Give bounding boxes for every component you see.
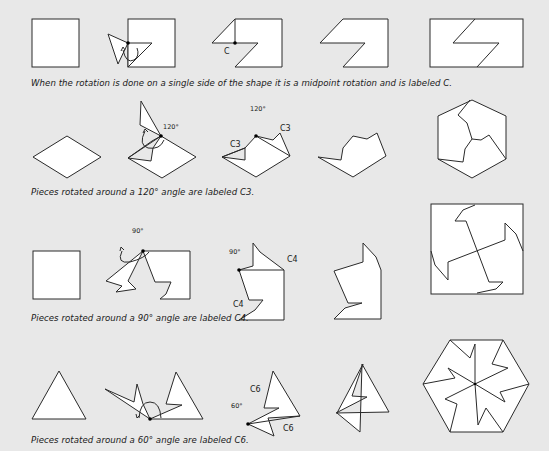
tessellation-diagram [0,0,549,451]
label-c4-top: C4 [287,255,298,264]
caption-c6: Pieces rotated around a 60° angle are la… [31,435,249,445]
label-angle-90-step3: 90° [229,248,241,256]
label-angle-120-step3: 120° [250,105,266,113]
c6-tile [336,364,389,432]
row-midpoint [32,19,523,67]
midpoint-labeled-step [212,19,282,67]
label-angle-120-step2: 120° [163,123,179,131]
rhombus-shape [33,136,101,178]
row-c4 [33,204,523,320]
caption-c4: Pieces rotated around a 90° angle are la… [31,313,249,323]
square-shape-c4 [33,251,80,299]
label-angle-60: 60° [231,402,243,410]
label-pivot-c: C [224,47,230,56]
label-c6-top: C6 [250,385,261,394]
c3-tiling [438,100,506,178]
caption-c3: Pieces rotated around a 120° angle are l… [31,187,254,197]
midpoint-rotation-step [108,19,175,67]
c3-tile [318,133,386,177]
triangle-shape [32,371,86,419]
row-c6 [32,340,529,436]
midpoint-tiling [430,19,523,67]
caption-midpoint: When the rotation is done on a single si… [31,78,452,88]
midpoint-tile [320,19,388,67]
label-c3-left: C3 [230,140,241,149]
c4-tile [334,243,381,319]
c4-rotation-step [106,247,190,299]
square-shape [32,19,79,67]
c6-rotation-step [105,372,203,421]
c4-tiling [431,204,523,294]
c6-tiling [423,340,529,432]
row-c3 [33,100,506,178]
label-angle-90-step2: 90° [132,227,144,235]
label-c3-right: C3 [280,124,291,133]
label-c6-bottom: C6 [283,424,294,433]
label-c4-bottom: C4 [233,300,244,309]
c3-rotation-step [128,101,196,178]
c4-labeled-step [237,243,284,320]
